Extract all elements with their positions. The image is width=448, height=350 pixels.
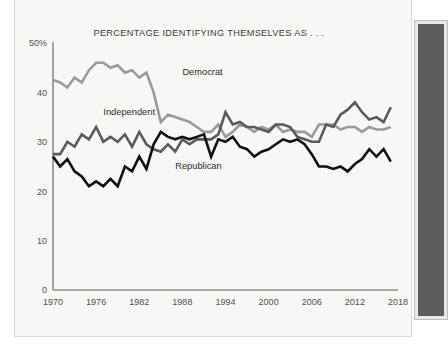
x-tick-label: 2006 (302, 297, 322, 307)
series-lines (53, 63, 391, 187)
series-label-democrat: Democrat (182, 67, 223, 77)
line-chart-svg: 01020304050% 197019761982198819942000200… (14, 0, 412, 337)
x-axis: 197019761982198819942000200620122018 (43, 290, 408, 307)
x-tick-label: 1976 (86, 297, 106, 307)
series-label-independent: Independent (103, 107, 155, 117)
x-tick-label: 1982 (129, 297, 149, 307)
y-tick-label: 50% (29, 38, 47, 48)
y-axis: 01020304050% (29, 38, 53, 295)
series-label-republican: Republican (175, 161, 222, 171)
x-tick-label: 1994 (215, 297, 235, 307)
chart-figure: PERCENTAGE IDENTIFYING THEMSELVES AS . .… (14, 0, 412, 337)
x-tick-label: 2012 (345, 297, 365, 307)
x-tick-label: 1970 (43, 297, 63, 307)
y-tick-label: 10 (37, 236, 47, 246)
right-dark-panel[interactable] (414, 20, 448, 320)
y-tick-label: 0 (42, 285, 47, 295)
y-tick-label: 20 (37, 187, 47, 197)
x-tick-label: 1988 (172, 297, 192, 307)
right-dark-panel-fill (418, 24, 444, 316)
x-tick-label: 2018 (388, 297, 408, 307)
y-tick-label: 40 (37, 88, 47, 98)
x-tick-label: 2000 (259, 297, 279, 307)
y-tick-label: 30 (37, 137, 47, 147)
